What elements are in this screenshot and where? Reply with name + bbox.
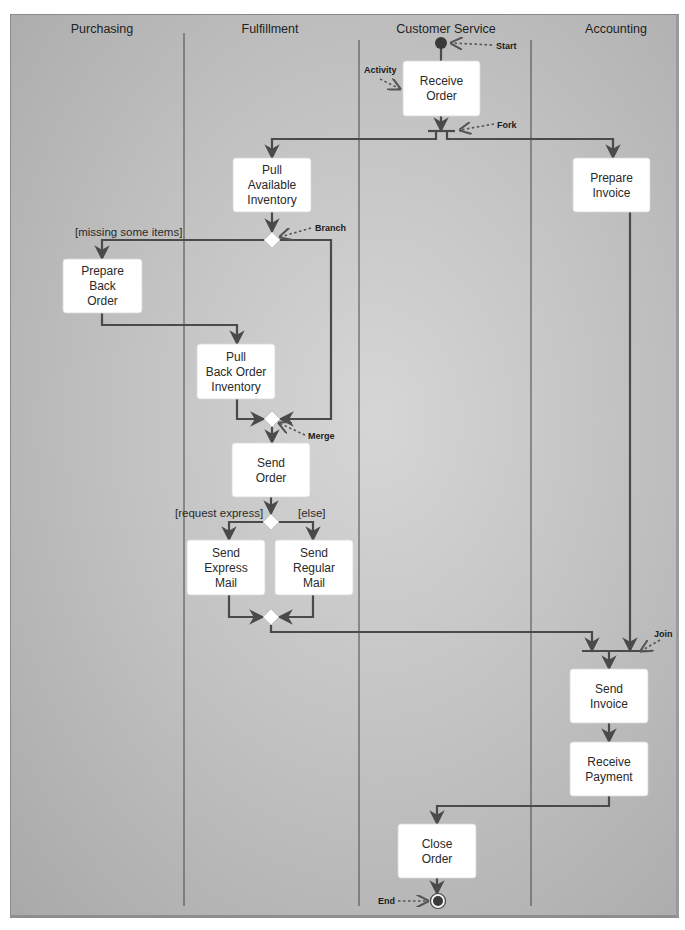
activity-label: Mail (215, 576, 237, 590)
callout-arrow (279, 423, 305, 435)
activity-label: Inventory (211, 380, 260, 394)
activity-send-express-mail: SendExpressMail (187, 540, 265, 595)
callout-merge: Merge (279, 423, 335, 441)
activity-label: Payment (585, 770, 633, 784)
activity-label: Back Order (206, 365, 267, 379)
branch-diamond (264, 232, 280, 248)
end-node-inner (433, 896, 443, 906)
callout-arrow (380, 79, 400, 89)
activity-prepare-invoice: PrepareInvoice (573, 158, 650, 212)
activity-label: Mail (303, 576, 325, 590)
callout-start: Start (451, 41, 517, 51)
flow-branch-to-backorder (102, 240, 264, 259)
activity-label: Prepare (81, 264, 124, 278)
activity-diagram: Purchasing Fulfillment Customer Service … (0, 0, 685, 930)
activity-receive-order: ReceiveOrder (403, 61, 480, 116)
callout-label: End (378, 896, 395, 906)
flow-pull-bo-to-merge (237, 399, 264, 419)
activity-label: Order (87, 294, 118, 308)
guard-else: [else] (298, 507, 326, 519)
activity-label: Order (256, 471, 287, 485)
callout-label: Branch (315, 223, 346, 233)
callout-arrow (451, 43, 492, 45)
flow-decision-to-express (229, 522, 263, 540)
activity-label: Express (204, 561, 247, 575)
flow-fork-left-to-pull (272, 131, 436, 158)
activity-label: Available (248, 178, 297, 192)
callout-arrow (460, 124, 494, 130)
activity-nodes: ReceiveOrderPullAvailableInventoryPrepar… (63, 61, 650, 878)
mail-merge-diamond (263, 609, 279, 625)
activity-send-invoice: SendInvoice (570, 669, 648, 723)
activity-label: Receive (587, 755, 631, 769)
activity-label: Send (300, 546, 328, 560)
callout-arrow (641, 640, 660, 651)
activity-send-order: SendOrder (232, 443, 310, 497)
activity-receive-payment: ReceivePayment (570, 742, 648, 796)
activity-label: Regular (293, 561, 335, 575)
activity-pull-available-inventory: PullAvailableInventory (233, 158, 311, 212)
activity-label: Invoice (592, 186, 630, 200)
activity-pull-back-order-inventory: PullBack OrderInventory (197, 344, 275, 399)
callout-label: Merge (308, 431, 335, 441)
activity-label: Prepare (590, 171, 633, 185)
activity-label: Order (426, 89, 457, 103)
activity-label: Pull (226, 350, 246, 364)
callout-branch: Branch (280, 223, 346, 237)
flow-payment-to-close-order (437, 796, 609, 824)
flow-backorder-to-pull-bo (102, 313, 237, 344)
terminal-nodes (431, 37, 448, 909)
activity-send-regular-mail: SendRegularMail (275, 540, 353, 595)
activity-label: Send (212, 546, 240, 560)
activity-label: Pull (262, 163, 282, 177)
merge-diamond (264, 411, 280, 427)
guard-request-express: [request express] (175, 507, 263, 519)
callout-fork: Fork (460, 120, 517, 130)
activity-label: Receive (420, 74, 464, 88)
activity-label: Order (422, 852, 453, 866)
flow-express-to-mail-merge (229, 595, 263, 617)
callout-label: Start (496, 41, 517, 51)
callout-arrow (280, 228, 311, 237)
flow-mail-merge-to-join (271, 625, 592, 651)
activity-label: Send (257, 456, 285, 470)
start-node (435, 37, 447, 49)
activity-label: Send (595, 682, 623, 696)
activity-label: Close (422, 837, 453, 851)
flow-branch-to-merge (280, 240, 331, 419)
callout-join: Join (641, 629, 673, 651)
activity-prepare-back-order: PrepareBackOrder (63, 259, 142, 313)
callout-label: Fork (497, 120, 517, 130)
guard-missing-items: [missing some items] (75, 226, 182, 238)
callout-label: Activity (364, 65, 397, 75)
flow-regular-to-mail-merge (279, 595, 313, 617)
activity-close-order: CloseOrder (398, 824, 476, 878)
control-flows (102, 43, 630, 894)
flow-fork-right-to-invoice (447, 131, 613, 158)
flow-decision-to-regular (279, 522, 313, 540)
activity-label: Inventory (247, 193, 296, 207)
activity-label: Back (89, 279, 117, 293)
activity-label: Invoice (590, 697, 628, 711)
callout-end: End (378, 896, 428, 906)
express-decision-diamond (263, 514, 279, 530)
diagram-canvas: ReceiveOrderPullAvailableInventoryPrepar… (0, 0, 685, 930)
callout-label: Join (654, 629, 673, 639)
callout-activity: Activity (364, 65, 400, 89)
